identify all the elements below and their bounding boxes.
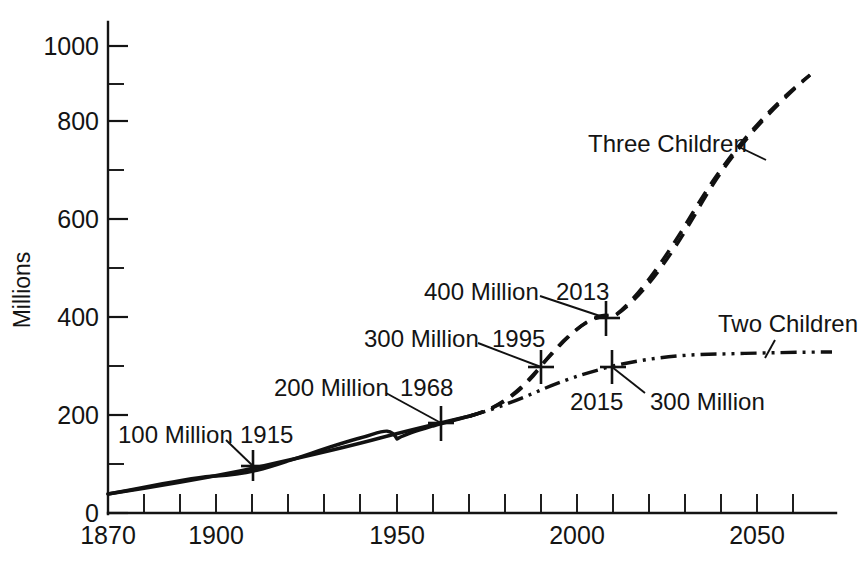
- annotation-2015: 2015: [570, 388, 623, 415]
- y-tick-label-200: 200: [57, 401, 99, 429]
- annotation-300-million-2015: 300 Million: [650, 388, 765, 415]
- annotation-200-million: 200 Million: [274, 374, 389, 401]
- y-tick-label-400: 400: [57, 303, 99, 331]
- annotation-400-million: 400 Million: [424, 278, 539, 305]
- y-tick-label-800: 800: [57, 107, 99, 135]
- y-axis-title: Millions: [9, 252, 35, 329]
- x-tick-label-2050: 2050: [729, 521, 785, 549]
- annotation-2013: 2013: [556, 278, 609, 305]
- x-tick-label-1900: 1900: [188, 521, 244, 549]
- annotation-1968: 1968: [400, 374, 453, 401]
- annotation-300-million: 300 Million: [364, 325, 479, 352]
- x-tick-label-2000: 2000: [549, 521, 605, 549]
- series-label-two-children: Two Children: [718, 310, 858, 337]
- x-tick-label-1950: 1950: [369, 521, 425, 549]
- annotation-100-million: 100 Million: [118, 421, 233, 448]
- x-tick-label-1870: 1870: [80, 521, 136, 549]
- annotation-1915: 1915: [240, 421, 293, 448]
- population-projection-chart: 0 200 400 600 800 1000 Millions: [0, 0, 863, 576]
- annotation-1995: 1995: [492, 325, 545, 352]
- chart-canvas: 0 200 400 600 800 1000 Millions: [0, 0, 863, 576]
- series-label-three-children: Three Children: [588, 130, 747, 157]
- y-tick-label-1000: 1000: [43, 32, 99, 60]
- y-tick-label-600: 600: [57, 205, 99, 233]
